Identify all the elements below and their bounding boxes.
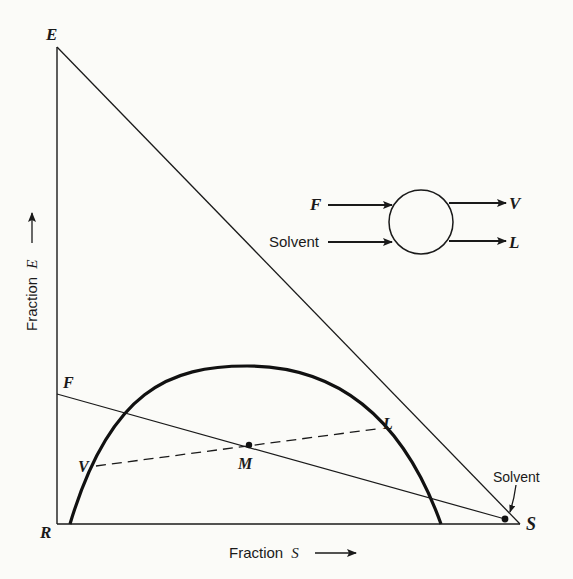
hypotenuse-line: [57, 47, 520, 524]
figure-page: E R S F V M L Solvent Fraction S Fractio…: [0, 0, 573, 579]
vertex-label-s: S: [526, 514, 536, 534]
point-label-l: L: [382, 415, 393, 432]
feed-solvent-line: [57, 394, 505, 519]
inset-label-l: L: [508, 233, 519, 252]
triangle-frame: [57, 47, 520, 524]
inset-label-solvent: Solvent: [269, 233, 320, 250]
y-axis-variable: E: [24, 259, 40, 269]
x-axis-title-text: Fraction: [229, 544, 283, 561]
solvent-pointer-arrow: [510, 485, 516, 512]
solvent-point: [502, 516, 509, 523]
vertex-label-e: E: [45, 25, 57, 44]
y-axis-title-text: Fraction: [23, 277, 40, 331]
point-label-f: F: [62, 374, 74, 391]
stage-vessel: [389, 190, 453, 254]
point-label-m: M: [237, 455, 253, 472]
x-axis-title: Fraction S: [229, 544, 356, 561]
tie-line: [96, 429, 376, 466]
x-axis-variable: S: [291, 545, 299, 561]
svg-text:Fraction S: Fraction S: [229, 544, 299, 561]
point-label-solvent: Solvent: [493, 469, 540, 485]
mixture-point: [246, 442, 252, 448]
svg-text:Fraction E: Fraction E: [23, 259, 40, 331]
y-axis-title: Fraction E: [23, 213, 40, 331]
inset-stage-schematic: F Solvent V L: [269, 190, 522, 254]
ternary-diagram: E R S F V M L Solvent Fraction S Fractio…: [0, 0, 573, 579]
point-label-v: V: [78, 458, 90, 475]
inset-label-f: F: [309, 195, 322, 214]
inset-label-v: V: [509, 194, 522, 213]
vertex-label-r: R: [39, 523, 51, 542]
